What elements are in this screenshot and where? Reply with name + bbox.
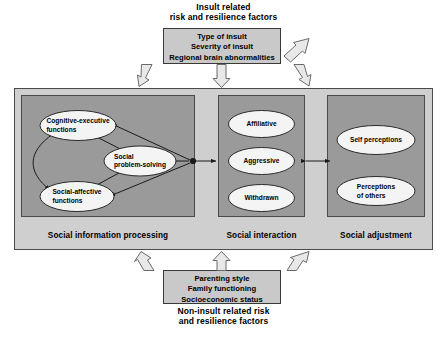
node-withdrawn-label: Withdrawn xyxy=(244,194,278,202)
figure-canvas: Insult related risk and resilience facto… xyxy=(0,0,447,340)
bottom-caption-line-2: and resilience factors xyxy=(0,316,447,326)
hollow-arrow-top-right xyxy=(294,65,311,87)
label-line-2: functions xyxy=(46,126,109,134)
bottom-box-text: Parenting style Family functioning Socio… xyxy=(163,274,281,305)
figure-bottom-caption: Non-insult related risk and resilience f… xyxy=(0,306,447,326)
hollow-arrow-top-center xyxy=(213,65,230,88)
label-line-1: Affiliative xyxy=(246,120,276,128)
convergence-node xyxy=(190,158,196,164)
top-box-line-3: Regional brain abnormalities xyxy=(163,53,281,63)
hollow-arrow-bottom-left xyxy=(135,252,155,271)
figure-top-caption: Insult related risk and resilience facto… xyxy=(0,2,447,22)
node-cognitive-executive-functions[interactable]: Cognitive-executive functions xyxy=(40,110,116,141)
bottom-box-line-1: Parenting style xyxy=(163,274,281,284)
node-perceptions-of-others[interactable]: Perceptions of others xyxy=(338,177,414,206)
top-box-line-2: Severity of insult xyxy=(163,42,281,52)
node-social-problem-solving-label: Social problem-solving xyxy=(114,153,166,169)
label-line-2: functions xyxy=(52,197,101,205)
top-caption-line-2: risk and resilience factors xyxy=(0,12,447,22)
top-caption-line-1: Insult related xyxy=(0,2,447,12)
panel-label-social-information-processing: Social information processing xyxy=(21,231,195,241)
bottom-box-line-2: Family functioning xyxy=(163,284,281,294)
top-box-text: Type of insult Severity of insult Region… xyxy=(163,32,281,63)
label-line-1: Social xyxy=(114,153,166,161)
label-line-1: Withdrawn xyxy=(244,194,278,202)
hollow-arrow-bottom-center xyxy=(213,252,230,271)
label-line-1: Aggressive xyxy=(243,157,279,165)
node-withdrawn[interactable]: Withdrawn xyxy=(228,184,295,212)
bottom-caption-line-1: Non-insult related risk xyxy=(0,306,447,316)
node-aggressive[interactable]: Aggressive xyxy=(228,147,295,175)
label-line-1: Social-affective xyxy=(52,188,101,196)
node-social-affective-functions[interactable]: Social-affective functions xyxy=(40,181,114,212)
node-perceptions-of-others-label: Perceptions of others xyxy=(357,183,395,199)
top-box-line-1: Type of insult xyxy=(163,32,281,42)
node-cognitive-executive-functions-label: Cognitive-executive functions xyxy=(46,117,109,133)
label-line-2: problem-solving xyxy=(114,161,166,169)
panel-label-social-interaction: Social interaction xyxy=(215,231,308,241)
panel-label-social-adjustment: Social adjustment xyxy=(327,231,425,241)
node-affiliative[interactable]: Affiliative xyxy=(228,110,295,138)
node-self-perceptions-label: Self perceptions xyxy=(350,136,402,144)
node-social-problem-solving[interactable]: Social problem-solving xyxy=(104,146,176,176)
node-aggressive-label: Aggressive xyxy=(243,157,279,165)
hollow-arrow-into-top-box xyxy=(284,39,309,63)
label-line-2: of others xyxy=(357,192,395,200)
label-line-1: Cognitive-executive xyxy=(46,117,109,125)
label-line-1: Self perceptions xyxy=(350,136,402,144)
node-self-perceptions[interactable]: Self perceptions xyxy=(338,126,414,155)
hollow-arrow-bottom-right xyxy=(287,252,309,271)
bottom-box-line-3: Socioeconomic status xyxy=(163,295,281,305)
label-line-1: Perceptions xyxy=(357,183,395,191)
node-social-affective-functions-label: Social-affective functions xyxy=(52,188,101,204)
node-affiliative-label: Affiliative xyxy=(246,120,276,128)
hollow-arrow-top-left xyxy=(138,65,153,87)
